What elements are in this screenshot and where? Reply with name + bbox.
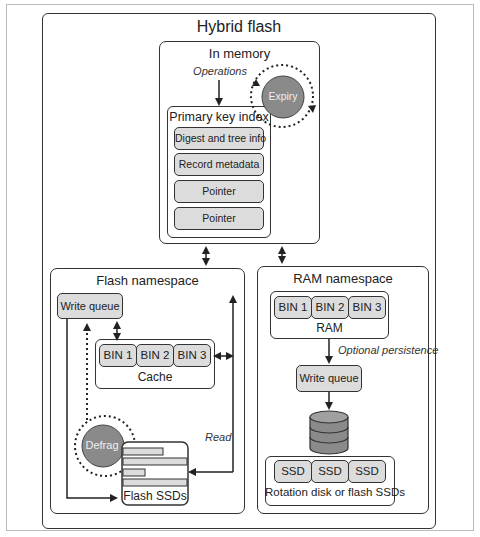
expiry-label: Expiry — [262, 90, 304, 102]
flash-ssds-label: Flash SSDs — [122, 489, 188, 503]
writequeue-flash-arrow — [67, 319, 116, 498]
database-icon — [310, 411, 348, 454]
connectors-layer — [0, 0, 480, 537]
defrag-label: Defrag — [82, 439, 122, 451]
